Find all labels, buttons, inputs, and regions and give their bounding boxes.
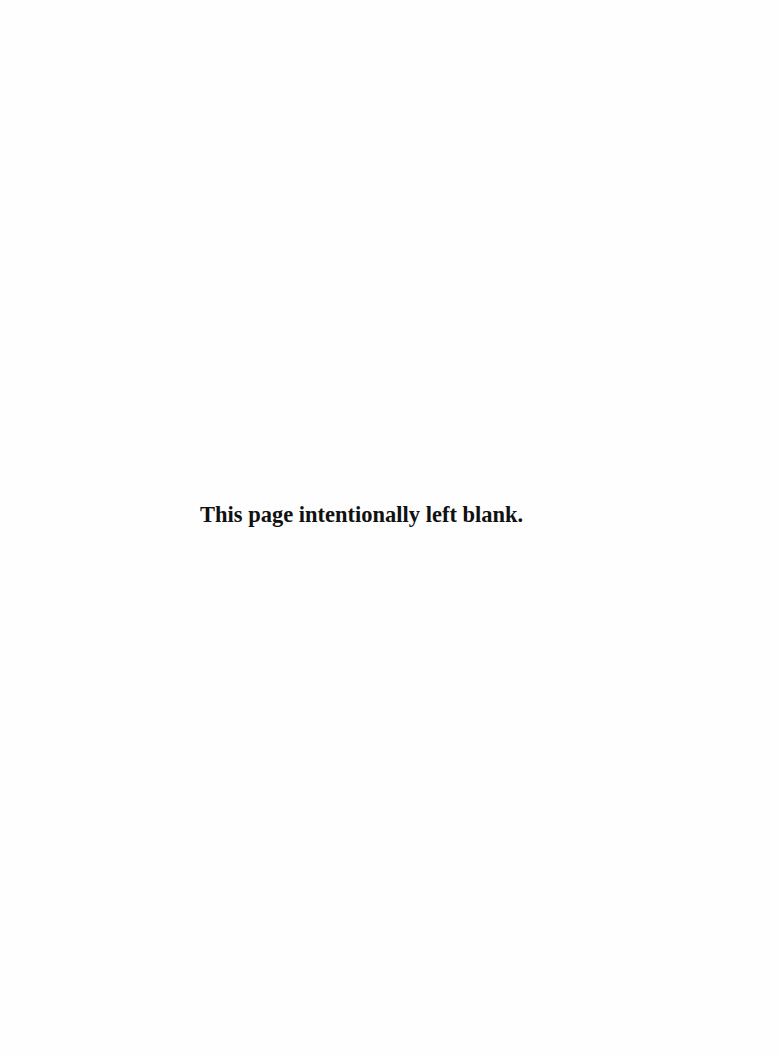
blank-page-notice: This page intentionally left blank. [200, 502, 523, 528]
document-page: This page intentionally left blank. [0, 0, 779, 1055]
